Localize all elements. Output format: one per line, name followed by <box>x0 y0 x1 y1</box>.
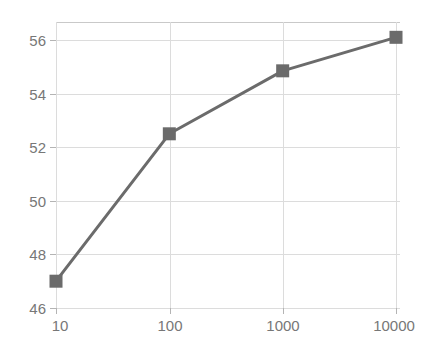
data-point-marker <box>163 127 176 140</box>
series-markers-1 <box>50 31 403 288</box>
series-line-1 <box>56 37 396 281</box>
data-point-marker <box>276 64 289 77</box>
series-layer <box>0 0 428 352</box>
data-point-marker <box>390 31 403 44</box>
data-point-marker <box>50 275 63 288</box>
chart-container: 46 48 50 52 54 56 10 100 1000 10000 <box>0 0 428 352</box>
